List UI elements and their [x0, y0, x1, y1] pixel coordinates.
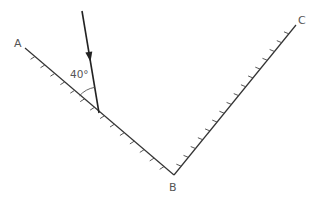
angle-label: 40°	[70, 68, 89, 80]
mirror-bc	[174, 25, 296, 175]
hatch-mark	[198, 138, 203, 140]
angle-arc	[79, 87, 94, 95]
hatch-mark	[277, 41, 282, 43]
hatch-mark	[176, 164, 181, 166]
hatch-mark	[50, 73, 54, 76]
hatch-mark	[140, 150, 144, 153]
mirror-diagram: 40° A B C	[0, 0, 319, 197]
hatch-mark	[110, 124, 114, 127]
point-label-b: B	[169, 181, 177, 194]
hatch-mark	[130, 141, 134, 144]
hatch-mark	[90, 107, 94, 110]
hatch-mark	[270, 49, 275, 51]
hatch-mark	[80, 99, 84, 102]
hatch-mark	[227, 102, 232, 104]
arrowhead-icon	[85, 51, 92, 61]
hatch-mark	[160, 167, 164, 170]
mirror-ab-hatching	[31, 56, 165, 169]
point-label-c: C	[298, 14, 306, 27]
mirror-bc-surface	[174, 25, 296, 175]
hatch-mark	[191, 147, 196, 149]
hatch-mark	[205, 129, 210, 131]
hatch-mark	[212, 120, 217, 122]
mirror-bc-hatching	[176, 32, 288, 166]
hatch-mark	[219, 111, 224, 113]
hatch-mark	[31, 56, 35, 59]
hatch-mark	[284, 32, 289, 34]
hatch-mark	[40, 65, 44, 68]
point-label-a: A	[14, 37, 22, 50]
hatch-mark	[150, 158, 154, 161]
hatch-mark	[60, 82, 64, 85]
hatch-mark	[234, 94, 239, 96]
hatch-mark	[241, 85, 246, 87]
hatch-mark	[120, 133, 124, 136]
hatch-mark	[70, 90, 74, 93]
hatch-mark	[255, 67, 260, 69]
hatch-mark	[100, 116, 104, 119]
incident-ray-line	[82, 11, 99, 113]
hatch-mark	[184, 155, 189, 157]
hatch-mark	[248, 76, 253, 78]
incident-ray	[82, 11, 99, 113]
hatch-mark	[262, 58, 267, 60]
